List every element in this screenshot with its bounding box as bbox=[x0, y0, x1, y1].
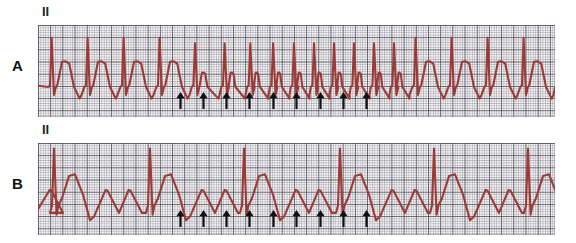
flutter-wave-marker-7 bbox=[316, 210, 325, 227]
flutter-wave-marker-7 bbox=[316, 92, 325, 109]
flutter-wave-marker-6 bbox=[292, 92, 301, 109]
flutter-wave-marker-5 bbox=[269, 92, 278, 109]
flutter-wave-marker-1 bbox=[176, 92, 185, 109]
lead-label-a: II bbox=[42, 5, 49, 18]
flutter-wave-marker-9 bbox=[362, 92, 371, 109]
flutter-wave-marker-4 bbox=[245, 210, 254, 227]
flutter-wave-marker-2 bbox=[199, 92, 208, 109]
flutter-wave-marker-2 bbox=[199, 210, 208, 227]
flutter-wave-marker-5 bbox=[269, 210, 278, 227]
flutter-wave-marker-8 bbox=[339, 210, 348, 227]
flutter-wave-marker-9 bbox=[362, 210, 371, 227]
lead-label-b: II bbox=[42, 123, 49, 136]
flutter-wave-marker-1 bbox=[176, 210, 185, 227]
ecg-figure: A II B II bbox=[0, 0, 576, 243]
flutter-wave-marker-6 bbox=[292, 210, 301, 227]
flutter-wave-marker-3 bbox=[222, 210, 231, 227]
flutter-wave-marker-4 bbox=[245, 92, 254, 109]
flutter-wave-marker-3 bbox=[222, 92, 231, 109]
panel-letter-a: A bbox=[12, 58, 23, 73]
panel-letter-b: B bbox=[12, 176, 23, 191]
flutter-wave-marker-8 bbox=[339, 92, 348, 109]
